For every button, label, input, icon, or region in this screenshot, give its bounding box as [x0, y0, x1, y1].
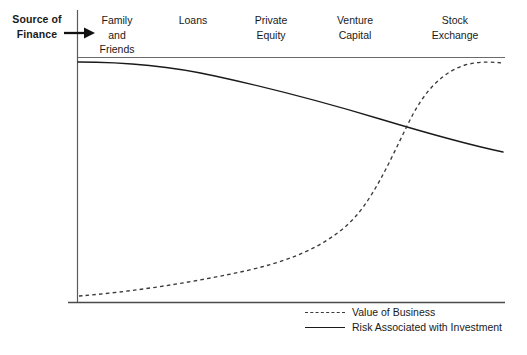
legend-swatch-solid — [305, 322, 345, 332]
chart-legend: Value of Business Risk Associated with I… — [305, 304, 520, 334]
legend-label-risk-associated-with-investment: Risk Associated with Investment — [345, 321, 502, 333]
risk-curve — [78, 62, 503, 152]
stage-label-private-equity: Private Equity — [231, 13, 311, 42]
legend-label-value-of-business: Value of Business — [345, 306, 435, 318]
stage-label-venture-capital: Venture Capital — [315, 13, 395, 42]
value-curve — [79, 62, 503, 296]
legend-item-risk-associated-with-investment: Risk Associated with Investment — [305, 319, 520, 334]
stage-label-stock-exchange: Stock Exchange — [410, 13, 500, 42]
axis-title-source-of-finance: Source of Finance — [6, 12, 68, 42]
legend-item-value-of-business: Value of Business — [305, 304, 520, 319]
legend-swatch-dashed — [305, 307, 345, 317]
stage-label-family-and-friends: Family and Friends — [77, 13, 157, 57]
stage-label-loans: Loans — [153, 13, 233, 28]
finance-lifecycle-chart: Source of Finance Family and Friends Loa… — [0, 0, 527, 355]
